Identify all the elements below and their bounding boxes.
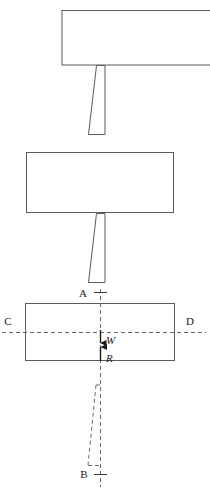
label-point-a: A — [79, 287, 87, 299]
free-body-diagram: A C D W R B — [0, 0, 210, 493]
middle-block — [27, 153, 174, 213]
upper-shear-parallelogram — [97, 66, 106, 136]
label-force-weight: W — [106, 334, 116, 346]
label-point-d: D — [186, 315, 194, 327]
top-block — [62, 11, 210, 66]
upper-shear-left-edge — [89, 66, 97, 135]
label-point-b: B — [80, 468, 87, 480]
lower-shear-left-edge — [89, 214, 97, 283]
dashed-shear-left-edge — [88, 385, 96, 465]
label-force-reaction: R — [105, 352, 113, 364]
label-point-c: C — [4, 315, 11, 327]
diagram-canvas: A C D W R B — [0, 0, 210, 493]
